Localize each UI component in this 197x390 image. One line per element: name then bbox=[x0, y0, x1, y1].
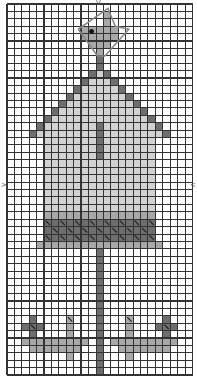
center-marker-left: > bbox=[1, 182, 7, 189]
backstitch-line bbox=[105, 221, 109, 225]
backstitch-line bbox=[83, 228, 87, 232]
backstitch-line bbox=[127, 228, 131, 232]
backstitch-line bbox=[90, 236, 94, 240]
backstitch-line bbox=[68, 317, 72, 321]
backstitch-line bbox=[164, 325, 168, 329]
backstitch-line bbox=[135, 236, 139, 240]
backstitch-line bbox=[112, 228, 116, 232]
backstitch-line bbox=[60, 236, 64, 240]
backstitch-line bbox=[46, 221, 50, 225]
cross-stitch-chart bbox=[7, 4, 192, 376]
center-marker-top: V bbox=[96, 0, 101, 7]
backstitch-line bbox=[75, 221, 79, 225]
backstitch-line bbox=[53, 228, 57, 232]
backstitch-line bbox=[127, 317, 131, 321]
backstitch-line bbox=[46, 236, 50, 240]
center-marker-bottom: Λ bbox=[96, 368, 101, 375]
backstitch-line bbox=[149, 221, 153, 225]
backstitch-line bbox=[120, 221, 124, 225]
backstitch-line bbox=[120, 236, 124, 240]
backstitch-line bbox=[31, 325, 35, 329]
backstitch-line bbox=[149, 236, 153, 240]
bird-eye-icon bbox=[89, 29, 94, 34]
backstitch-line bbox=[90, 221, 94, 225]
backstitch-line bbox=[75, 236, 79, 240]
backstitch-line bbox=[60, 221, 64, 225]
backstitch-line bbox=[98, 228, 102, 232]
backstitch-line bbox=[142, 228, 146, 232]
backstitch-line bbox=[105, 236, 109, 240]
backstitch-line bbox=[135, 221, 139, 225]
center-marker-right: < bbox=[190, 182, 196, 189]
bird-outline-icon bbox=[7, 4, 192, 376]
backstitch-line bbox=[68, 228, 72, 232]
